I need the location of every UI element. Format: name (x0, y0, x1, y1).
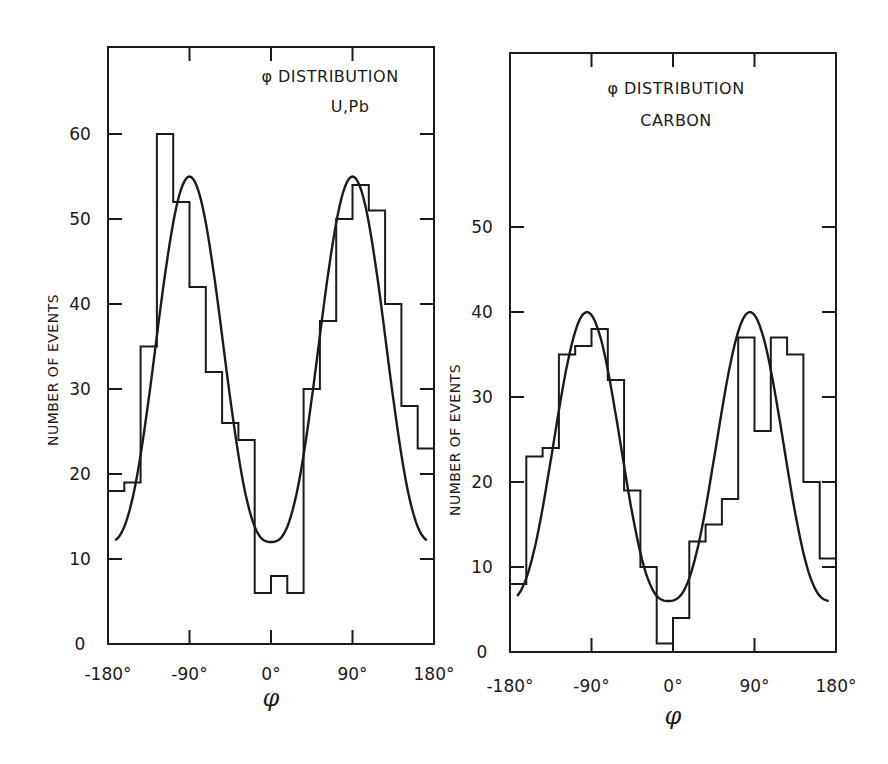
y-tick-label: 50 (471, 217, 493, 237)
x-tick-label: -180° (84, 664, 131, 684)
y-tick-label: 10 (69, 549, 91, 569)
y-tick-label: 30 (69, 379, 91, 399)
fit-curve (115, 177, 427, 543)
y-tick-label: 40 (69, 294, 91, 314)
y-tick-label: 20 (69, 464, 91, 484)
histogram-steps (510, 329, 836, 652)
y-tick-label: 0 (477, 642, 488, 662)
x-tick-label: 0° (261, 664, 280, 684)
chart-panel-left: -180°-90°0°90°180°0102030405060φ DISTRIB… (45, 47, 454, 712)
chart-subtitle: U,Pb (331, 97, 370, 116)
y-axis-label: NUMBER OF EVENTS (45, 294, 61, 446)
x-tick-label: -180° (486, 676, 533, 696)
y-tick-label: 30 (471, 387, 493, 407)
x-tick-label: 90° (337, 664, 367, 684)
y-axis-label: NUMBER OF EVENTS (447, 364, 463, 516)
chart-title: φ DISTRIBUTION (607, 79, 744, 98)
histogram-steps (108, 134, 434, 644)
x-axis-label: φ (665, 702, 682, 730)
chart-title: φ DISTRIBUTION (261, 67, 398, 86)
y-tick-label: 0 (75, 634, 86, 654)
x-axis-label: φ (263, 684, 280, 712)
chart-subtitle: CARBON (640, 111, 712, 130)
x-tick-label: 90° (739, 676, 769, 696)
y-tick-label: 50 (69, 209, 91, 229)
x-tick-label: 180° (816, 676, 857, 696)
x-tick-label: 180° (414, 664, 455, 684)
x-tick-label: -90° (573, 676, 609, 696)
x-tick-label: 0° (663, 676, 682, 696)
y-tick-label: 60 (69, 124, 91, 144)
chart-panel-right: -180°-90°0°90°180°01020304050φ DISTRIBUT… (447, 53, 856, 730)
y-tick-label: 10 (471, 557, 493, 577)
y-tick-label: 20 (471, 472, 493, 492)
figure-canvas: -180°-90°0°90°180°0102030405060φ DISTRIB… (0, 0, 888, 764)
x-tick-label: -90° (171, 664, 207, 684)
y-tick-label: 40 (471, 302, 493, 322)
